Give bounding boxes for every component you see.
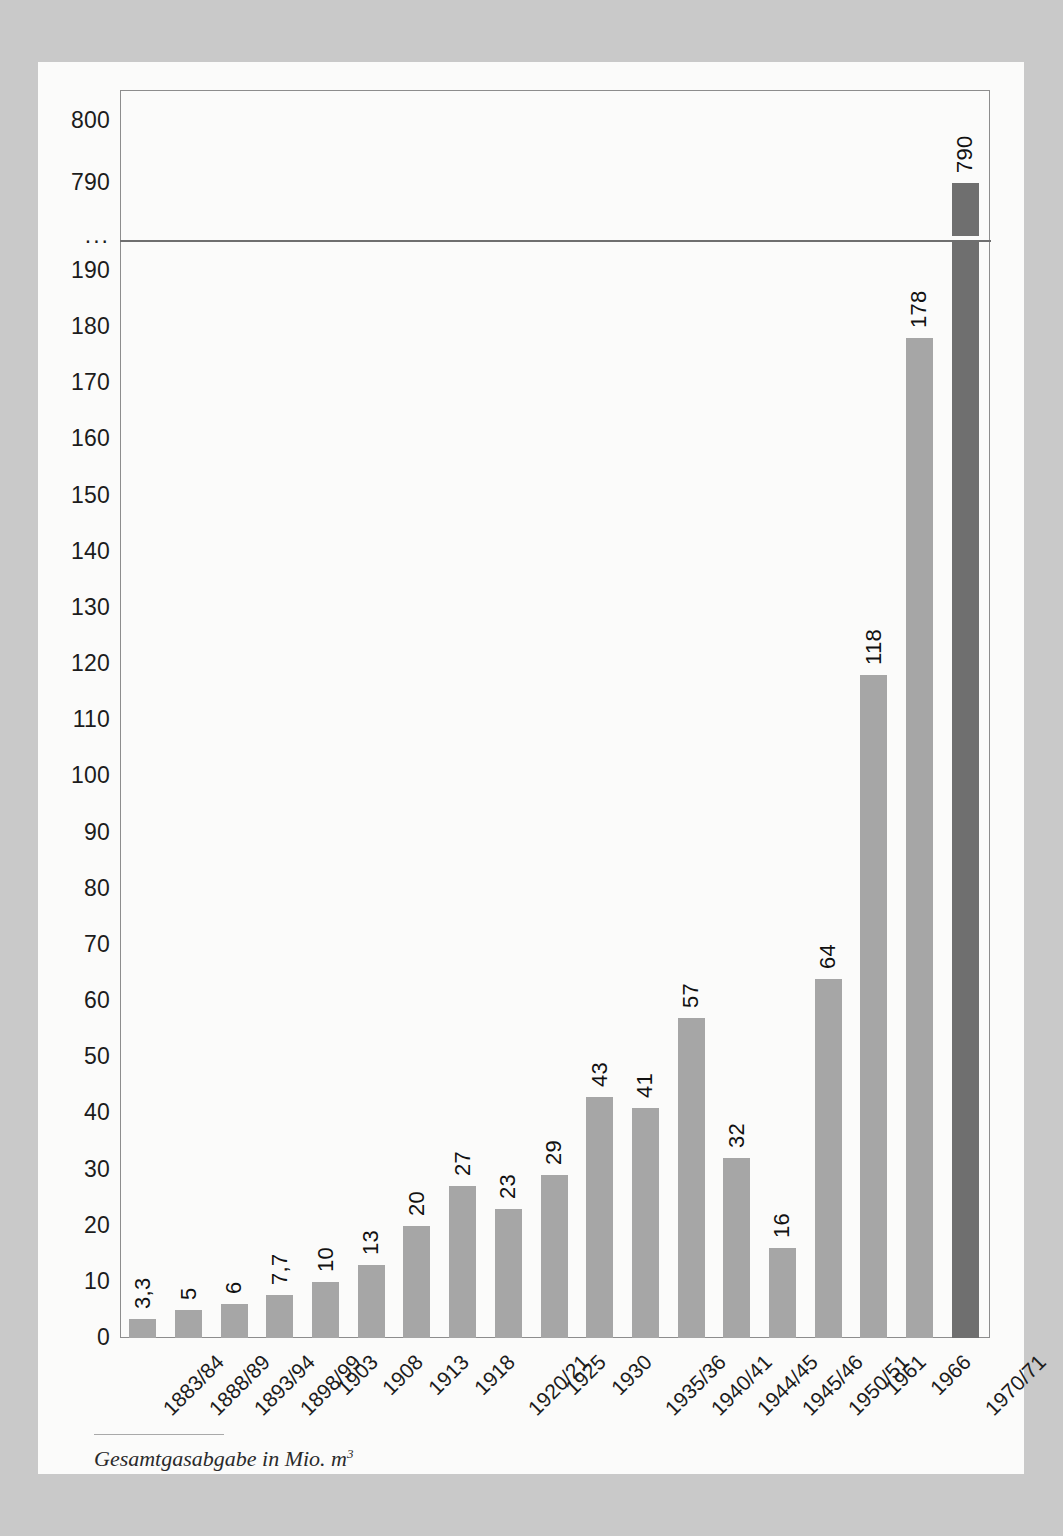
bar-group[interactable]: 29 bbox=[541, 91, 568, 1337]
bar-upper-segment[interactable] bbox=[952, 183, 979, 236]
bar-group[interactable]: 6 bbox=[221, 91, 248, 1337]
bar-value-label: 3,3 bbox=[130, 1278, 156, 1309]
bar-value-label: 178 bbox=[906, 291, 932, 329]
bar-group[interactable]: 790 bbox=[952, 91, 979, 1337]
caption-label: Gesamtgasabgabe in Mio. m bbox=[94, 1446, 347, 1471]
bar[interactable] bbox=[312, 1282, 339, 1338]
x-axis-tick-label: 1913 bbox=[424, 1350, 474, 1400]
y-axis-tick-label: 110 bbox=[42, 708, 110, 731]
y-axis-tick-label: ... bbox=[42, 224, 110, 247]
x-axis-tick-label: 1918 bbox=[469, 1350, 519, 1400]
y-axis-tick-label: 40 bbox=[42, 1101, 110, 1124]
y-axis-tick-label: 100 bbox=[42, 764, 110, 787]
bar-value-label: 43 bbox=[587, 1061, 613, 1086]
bar-value-label: 16 bbox=[769, 1213, 795, 1238]
bar-value-label: 20 bbox=[404, 1191, 430, 1216]
bar[interactable] bbox=[221, 1304, 248, 1338]
bar-value-label: 41 bbox=[632, 1073, 658, 1098]
bar-value-label: 5 bbox=[176, 1287, 202, 1300]
bar[interactable] bbox=[678, 1018, 705, 1338]
bar-group[interactable]: 41 bbox=[632, 91, 659, 1337]
bars-layer: 3,3567,710132027232943415732166411817879… bbox=[121, 91, 989, 1337]
bar[interactable] bbox=[632, 1108, 659, 1338]
bar-value-label: 10 bbox=[313, 1247, 339, 1272]
bar-value-label: 13 bbox=[358, 1230, 384, 1255]
bar[interactable] bbox=[952, 242, 979, 1338]
y-axis-tick-label: 180 bbox=[42, 315, 110, 338]
y-axis-tick-label: 0 bbox=[42, 1326, 110, 1349]
bar[interactable] bbox=[358, 1265, 385, 1338]
bar-value-label: 57 bbox=[678, 983, 704, 1008]
y-axis-tick-label: 80 bbox=[42, 877, 110, 900]
page-sheet: 800790...1901801701601501401301201101009… bbox=[38, 62, 1024, 1474]
bar-group[interactable]: 178 bbox=[906, 91, 933, 1337]
y-axis: 800790...1901801701601501401301201101009… bbox=[38, 62, 110, 1352]
bar[interactable] bbox=[449, 1186, 476, 1338]
bar-group[interactable]: 10 bbox=[312, 91, 339, 1337]
bar-group[interactable]: 27 bbox=[449, 91, 476, 1337]
bar-value-label: 32 bbox=[724, 1123, 750, 1148]
caption-text: Gesamtgasabgabe in Mio. m3 bbox=[94, 1446, 594, 1472]
bar[interactable] bbox=[586, 1097, 613, 1338]
x-axis-tick-label: 1970/71 bbox=[980, 1350, 1051, 1421]
y-axis-tick-label: 30 bbox=[42, 1158, 110, 1181]
bar-group[interactable]: 23 bbox=[495, 91, 522, 1337]
bar[interactable] bbox=[723, 1158, 750, 1338]
bar-group[interactable]: 57 bbox=[678, 91, 705, 1337]
y-axis-tick-label: 140 bbox=[42, 540, 110, 563]
bar-group[interactable]: 64 bbox=[815, 91, 842, 1337]
y-axis-tick-label: 50 bbox=[42, 1045, 110, 1068]
y-axis-tick-label: 790 bbox=[42, 171, 110, 194]
y-axis-tick-label: 120 bbox=[42, 652, 110, 675]
bar-chart: 800790...1901801701601501401301201101009… bbox=[38, 62, 1024, 1474]
bar-group[interactable]: 3,3 bbox=[129, 91, 156, 1337]
bar-value-label: 29 bbox=[541, 1140, 567, 1165]
x-axis-tick-label: 1966 bbox=[926, 1350, 976, 1400]
bar-value-label: 64 bbox=[815, 944, 841, 969]
bar-group[interactable]: 32 bbox=[723, 91, 750, 1337]
bar-value-label: 118 bbox=[861, 629, 887, 665]
bar-group[interactable]: 20 bbox=[403, 91, 430, 1337]
bar-group[interactable]: 7,7 bbox=[266, 91, 293, 1337]
x-axis-tick-label: 1908 bbox=[378, 1350, 428, 1400]
caption-rule bbox=[94, 1434, 224, 1435]
bar-value-label: 23 bbox=[495, 1174, 521, 1199]
bar[interactable] bbox=[175, 1310, 202, 1338]
bar-group[interactable]: 16 bbox=[769, 91, 796, 1337]
bar-value-label: 27 bbox=[450, 1151, 476, 1176]
bar[interactable] bbox=[403, 1226, 430, 1338]
y-axis-tick-label: 130 bbox=[42, 596, 110, 619]
y-axis-tick-label: 90 bbox=[42, 821, 110, 844]
bar[interactable] bbox=[266, 1295, 293, 1338]
bar-value-label: 7,7 bbox=[267, 1253, 293, 1284]
y-axis-tick-label: 190 bbox=[42, 259, 110, 282]
bar[interactable] bbox=[769, 1248, 796, 1338]
bar[interactable] bbox=[815, 979, 842, 1338]
bar-value-label: 790 bbox=[952, 135, 978, 173]
caption: Gesamtgasabgabe in Mio. m3 bbox=[94, 1434, 594, 1472]
y-axis-tick-label: 150 bbox=[42, 484, 110, 507]
bar-group[interactable]: 118 bbox=[860, 91, 887, 1337]
bar-group[interactable]: 13 bbox=[358, 91, 385, 1337]
bar-group[interactable]: 5 bbox=[175, 91, 202, 1337]
bar[interactable] bbox=[860, 675, 887, 1338]
y-axis-tick-label: 160 bbox=[42, 427, 110, 450]
caption-superscript: 3 bbox=[347, 1446, 354, 1461]
bar[interactable] bbox=[495, 1209, 522, 1338]
bar[interactable] bbox=[541, 1175, 568, 1338]
bar[interactable] bbox=[129, 1319, 156, 1338]
y-axis-tick-label: 20 bbox=[42, 1214, 110, 1237]
y-axis-tick-label: 170 bbox=[42, 371, 110, 394]
bar-value-label: 6 bbox=[221, 1282, 247, 1295]
x-axis-tick-label: 1930 bbox=[606, 1350, 656, 1400]
bar-group[interactable]: 43 bbox=[586, 91, 613, 1337]
y-axis-tick-label: 800 bbox=[42, 109, 110, 132]
bar[interactable] bbox=[906, 338, 933, 1338]
y-axis-tick-label: 70 bbox=[42, 933, 110, 956]
y-axis-tick-label: 10 bbox=[42, 1270, 110, 1293]
y-axis-tick-label: 60 bbox=[42, 989, 110, 1012]
